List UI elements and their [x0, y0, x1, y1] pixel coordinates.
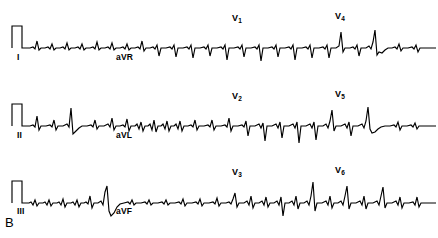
ecg-waveform-row-3 — [12, 181, 436, 216]
lead-label-aVR: aVR — [116, 53, 133, 62]
ecg-trace-row-3 — [0, 156, 438, 234]
lead-label-V6-sub: 6 — [341, 169, 345, 176]
lead-label-I: I — [17, 53, 20, 62]
ecg-strip-row-2: II aVL V2 V5 — [0, 78, 438, 156]
ecg-trace-row-2 — [0, 78, 438, 156]
lead-label-V3: V3 — [232, 168, 242, 177]
lead-label-V1: V1 — [232, 14, 242, 23]
lead-label-II: II — [17, 131, 22, 140]
lead-label-V2-sub: 2 — [238, 95, 242, 102]
ecg-waveform-row-2 — [12, 104, 436, 143]
lead-label-V6: V6 — [335, 166, 345, 175]
lead-label-V5-sub: 5 — [341, 93, 345, 100]
lead-label-V5: V5 — [335, 90, 345, 99]
lead-label-V2: V2 — [232, 92, 242, 101]
ecg-strip-row-3: III aVF V3 V6 — [0, 156, 438, 234]
ecg-waveform-row-1 — [12, 26, 436, 61]
lead-label-aVF: aVF — [116, 207, 132, 216]
lead-label-aVL: aVL — [116, 131, 132, 140]
lead-label-V1-sub: 1 — [238, 17, 242, 24]
lead-label-III: III — [17, 207, 25, 216]
panel-letter-B: B — [5, 215, 14, 230]
lead-label-V4: V4 — [335, 12, 345, 21]
lead-label-V3-sub: 3 — [238, 171, 242, 178]
ecg-strip-row-1: I aVR V1 V4 — [0, 0, 438, 78]
lead-label-V4-sub: 4 — [341, 15, 345, 22]
ecg-figure: I aVR V1 V4 II aVL V2 V5 III aVF V3 V6 B — [0, 0, 438, 238]
ecg-trace-row-1 — [0, 0, 438, 78]
